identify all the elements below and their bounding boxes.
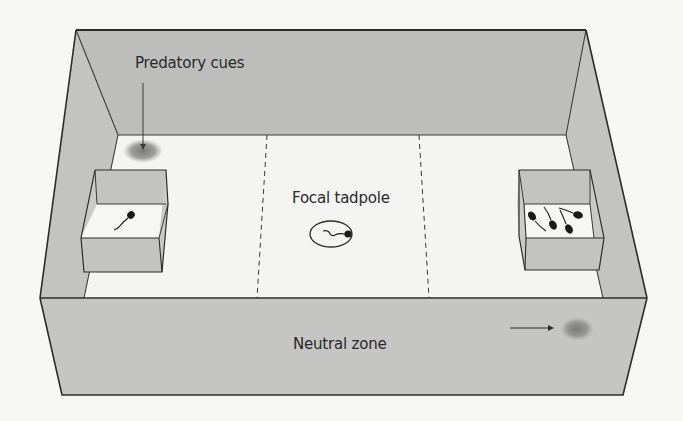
predatory-cues-label: Predatory cues bbox=[135, 54, 244, 72]
back-wall bbox=[76, 30, 586, 135]
tank-diagram: Predatory cues Focal tadpole Neutral zon… bbox=[0, 0, 683, 421]
tank-illustration bbox=[0, 0, 683, 421]
left-cage bbox=[81, 170, 168, 272]
right-cage bbox=[517, 170, 604, 270]
focal-tadpole-label: Focal tadpole bbox=[292, 189, 390, 207]
neutral-cue-blob bbox=[560, 317, 594, 341]
neutral-zone-label: Neutral zone bbox=[293, 335, 387, 353]
